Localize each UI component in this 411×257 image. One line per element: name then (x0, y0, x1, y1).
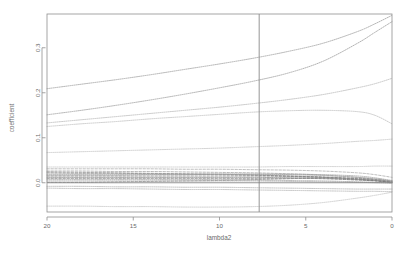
y-tick-label-0.1: 0.1 (34, 133, 41, 142)
x-tick-label-20: 20 (44, 222, 51, 229)
x-tick-label-0: 0 (390, 222, 394, 229)
y-tick-label-0.0: 0.0 (34, 178, 41, 187)
x-axis-title: lambda2 (207, 234, 232, 241)
x-tick-label-5: 5 (304, 222, 308, 229)
x-tick-label-15: 15 (130, 222, 137, 229)
y-axis-title: coefficient (8, 103, 15, 132)
coefficient-path-plot: 20151050 0.00.10.20.3 lambda2 coefficien… (0, 0, 411, 257)
plot-background (0, 0, 411, 257)
x-tick-label-10: 10 (216, 222, 223, 229)
y-tick-label-0.2: 0.2 (34, 88, 41, 97)
y-tick-label-0.3: 0.3 (34, 43, 41, 52)
chart-canvas: 20151050 0.00.10.20.3 lambda2 coefficien… (0, 0, 411, 257)
